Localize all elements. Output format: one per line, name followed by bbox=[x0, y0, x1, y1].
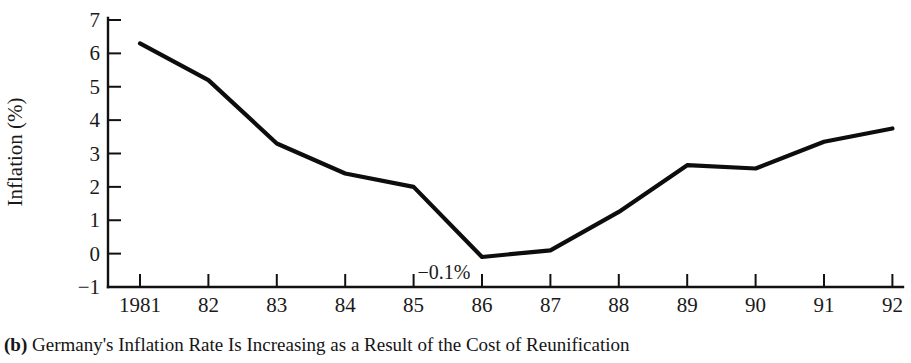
x-tick-label: 85 bbox=[403, 293, 424, 317]
y-tick-label: 6 bbox=[90, 41, 101, 65]
x-tick-label: 86 bbox=[472, 293, 493, 317]
y-tick-label: 0 bbox=[90, 242, 101, 266]
y-axis-tick-labels: 76543210−1 bbox=[78, 8, 101, 299]
x-tick-label: 90 bbox=[745, 293, 766, 317]
y-tick-label: 1 bbox=[90, 208, 101, 232]
data-point-annotation: −0.1% bbox=[418, 261, 471, 283]
inflation-series-line bbox=[140, 43, 892, 257]
x-tick-label: 87 bbox=[540, 293, 561, 317]
caption-tag: (b) bbox=[4, 334, 27, 355]
chart-annotations: −0.1% bbox=[418, 261, 471, 283]
inflation-line-chart: 76543210−1 19818283848586878889909192 In… bbox=[0, 0, 911, 330]
chart-axes bbox=[108, 18, 903, 287]
y-tick-label: 4 bbox=[90, 108, 101, 132]
caption-body: Germany's Inflation Rate Is Increasing a… bbox=[32, 334, 630, 355]
x-tick-label: 83 bbox=[266, 293, 287, 317]
x-tick-label: 84 bbox=[335, 293, 357, 317]
x-tick-label: 91 bbox=[814, 293, 835, 317]
x-axis-ticks bbox=[140, 274, 892, 287]
y-tick-label: 2 bbox=[90, 175, 101, 199]
y-tick-label: 5 bbox=[90, 75, 101, 99]
x-tick-label: 92 bbox=[882, 293, 903, 317]
x-tick-label: 1981 bbox=[119, 293, 161, 317]
y-axis-label: Inflation (%) bbox=[3, 97, 27, 206]
y-tick-label: 7 bbox=[90, 8, 101, 32]
y-tick-label: 3 bbox=[90, 142, 101, 166]
figure-container: 76543210−1 19818283848586878889909192 In… bbox=[0, 0, 911, 363]
x-axis-tick-labels: 19818283848586878889909192 bbox=[119, 293, 903, 317]
x-tick-label: 88 bbox=[608, 293, 629, 317]
chart-canvas: 76543210−1 19818283848586878889909192 In… bbox=[0, 0, 911, 330]
figure-caption: (b) Germany's Inflation Rate Is Increasi… bbox=[4, 332, 904, 358]
y-tick-label: −1 bbox=[78, 275, 100, 299]
x-tick-label: 82 bbox=[198, 293, 219, 317]
x-tick-label: 89 bbox=[677, 293, 698, 317]
y-axis-ticks bbox=[108, 20, 121, 287]
